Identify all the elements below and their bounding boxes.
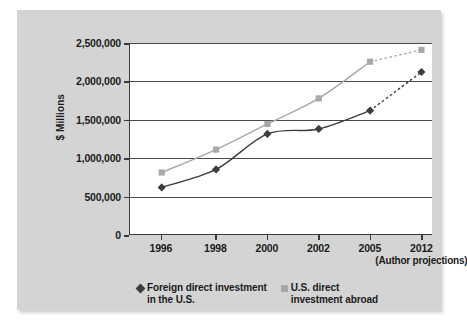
- x-axis-tick-label: 2012: [410, 242, 433, 254]
- series-line-projected: [370, 72, 421, 111]
- series-line-solid: [162, 62, 370, 173]
- x-axis-tick-label: 2002: [307, 242, 330, 254]
- legend-item[interactable]: Foreign direct investment in the U.S.: [137, 282, 267, 306]
- x-axis-tick-mark: [370, 235, 372, 240]
- data-point-marker: [159, 169, 165, 175]
- y-axis-tick-label: 2,500,000: [76, 37, 121, 49]
- x-axis-tick-mark: [267, 235, 269, 240]
- legend-label: U.S. direct investment abroad: [291, 282, 378, 306]
- x-axis-tick-label: 2005: [359, 242, 382, 254]
- y-axis-tick-label: 1,500,000: [76, 114, 121, 126]
- data-point-marker: [315, 125, 323, 133]
- y-axis-tick-label: 1,000,000: [76, 152, 121, 164]
- data-point-marker: [212, 165, 220, 173]
- data-point-marker: [367, 59, 373, 65]
- data-point-marker: [366, 107, 374, 115]
- legend-item[interactable]: U.S. direct investment abroad: [281, 282, 378, 306]
- x-axis-tick-label: 1998: [204, 242, 227, 254]
- x-axis-tick-label: 2000: [256, 242, 279, 254]
- y-axis-tick-label: 0: [115, 229, 121, 241]
- data-point-marker: [418, 47, 424, 53]
- x-axis-tick-mark: [318, 235, 320, 240]
- series-2: [159, 47, 425, 176]
- chart-legend: Foreign direct investment in the U.S.U.S…: [137, 282, 378, 306]
- x-axis-tick-sublabel: (Author projections): [375, 255, 467, 267]
- x-axis-tick-mark: [161, 235, 163, 240]
- series-plot: [130, 43, 432, 234]
- series-line-projected: [370, 50, 421, 62]
- plot-frame: [129, 43, 432, 235]
- data-point-marker: [158, 183, 166, 191]
- chart-figure: $ Millions 0500,0001,000,0001,500,0002,0…: [0, 0, 467, 326]
- data-point-marker: [264, 121, 270, 127]
- x-axis-tick-mark: [215, 235, 217, 240]
- legend-square-icon: [281, 285, 288, 292]
- legend-diamond-icon: [136, 284, 146, 294]
- y-axis-title: $ Millions: [55, 94, 69, 141]
- legend-label: Foreign direct investment in the U.S.: [147, 282, 267, 306]
- y-axis-tick-label: 500,000: [84, 191, 121, 203]
- x-axis-tick-label: 1996: [150, 242, 173, 254]
- series-1: [158, 68, 426, 192]
- x-axis-tick-mark: [421, 235, 423, 240]
- data-point-marker: [316, 95, 322, 101]
- data-point-marker: [213, 146, 219, 152]
- y-axis-tick-label: 2,000,000: [76, 75, 121, 87]
- y-axis-tick-mark: [124, 235, 129, 237]
- chart-panel: $ Millions 0500,0001,000,0001,500,0002,0…: [17, 10, 441, 310]
- data-point-marker: [263, 130, 271, 138]
